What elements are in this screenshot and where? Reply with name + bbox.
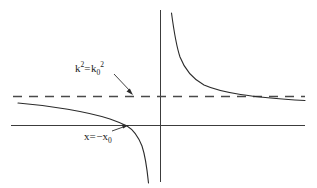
- intercept-label-x0-subscript: 0: [108, 136, 112, 145]
- figure-container: k2=k02 x=−x0: [0, 0, 317, 188]
- asymptote-label-k0-exponent: 2: [100, 60, 104, 69]
- asymptote-label: k2=k02: [75, 63, 104, 74]
- plot-canvas: [0, 0, 317, 188]
- asymptote-annotation-arrow: [114, 74, 133, 95]
- asymptote-label-k0-subscript: 0: [96, 68, 100, 77]
- curve-left-branch: [18, 103, 149, 183]
- curve-right-branch: [172, 13, 306, 101]
- intercept-label: x=−x0: [84, 131, 112, 142]
- asymptote-label-equals: =: [84, 62, 91, 74]
